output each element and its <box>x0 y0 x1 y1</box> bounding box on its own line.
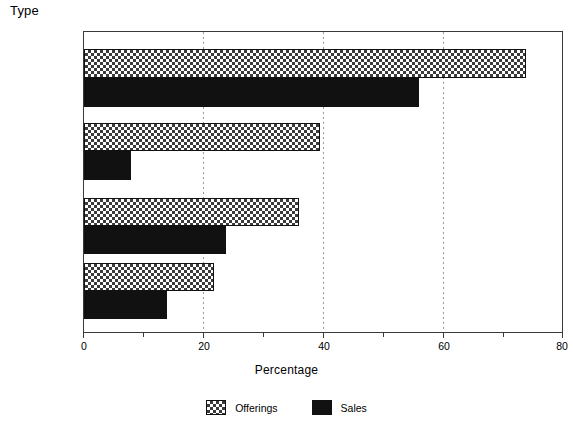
plot-inner <box>84 32 562 332</box>
legend-label-offerings: Offerings <box>235 402 277 414</box>
x-tick-label-60: 60 <box>438 340 450 352</box>
y-axis-title: Type <box>10 3 39 19</box>
bar-offerings-mainframes[interactable] <box>84 263 214 291</box>
bar-sales-micros-and-pcs[interactable] <box>84 78 419 107</box>
x-tick-label-80: 80 <box>556 340 568 352</box>
x-tick-30 <box>263 333 264 337</box>
x-tick-60 <box>443 333 444 338</box>
legend-item-sales[interactable]: Sales <box>312 400 367 415</box>
x-tick-label-40: 40 <box>318 340 330 352</box>
x-tick-0 <box>83 333 84 338</box>
x-tick-20 <box>203 333 204 338</box>
bar-sales-mainframes[interactable] <box>84 291 167 319</box>
x-axis-title: Percentage <box>0 363 573 377</box>
chart-legend: Offerings Sales <box>0 400 573 415</box>
legend-swatch-offerings-icon <box>206 400 226 415</box>
x-tick-80 <box>562 333 563 338</box>
x-tick-50 <box>383 333 384 337</box>
bar-sales-minicomputers[interactable] <box>84 226 226 254</box>
plot-area <box>83 31 563 333</box>
legend-label-sales: Sales <box>341 402 367 414</box>
x-tick-label-0: 0 <box>81 340 87 352</box>
bar-offerings-lans[interactable] <box>84 123 320 151</box>
legend-swatch-sales-icon <box>312 400 332 415</box>
x-tick-10 <box>143 333 144 337</box>
legend-item-offerings[interactable]: Offerings <box>206 400 277 415</box>
x-tick-label-20: 20 <box>198 340 210 352</box>
chart-canvas: Type Micros and PCs LANs Minicomputers M… <box>0 0 573 428</box>
x-tick-40 <box>323 333 324 338</box>
bar-offerings-minicomputers[interactable] <box>84 198 299 226</box>
x-tick-70 <box>503 333 504 337</box>
bar-offerings-micros-and-pcs[interactable] <box>84 49 526 78</box>
bar-sales-lans[interactable] <box>84 151 131 180</box>
